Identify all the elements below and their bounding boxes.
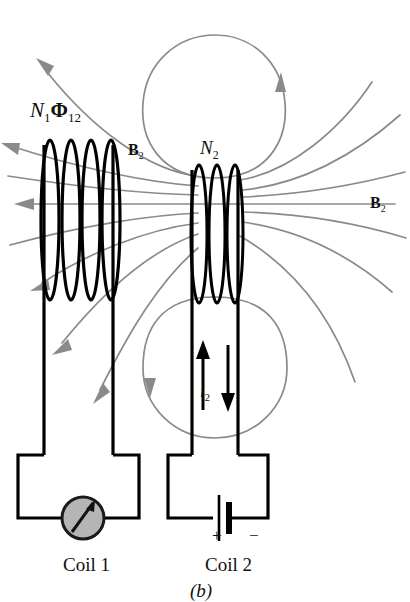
field-arrowhead-down-3 <box>52 339 72 355</box>
field-arrowhead-up-1 <box>36 58 54 76</box>
field-line-down-1 <box>10 213 198 245</box>
flux-phi-subscript: 12 <box>68 110 81 125</box>
b-field-left-label: B2 <box>128 142 144 161</box>
field-line-right-down-2 <box>242 222 392 292</box>
coil-2-turns-symbol: N <box>200 137 213 158</box>
b-field-left-symbol: B <box>128 141 139 158</box>
coil-2-turns-label: N2 <box>200 138 219 162</box>
galvanometer[interactable] <box>62 497 104 539</box>
field-arrowhead-upper-loop <box>275 72 286 92</box>
current-label: i2 <box>200 383 210 404</box>
b-field-right-label: B2 <box>370 195 386 214</box>
coil-1-name-label: Coil 1 <box>63 555 110 574</box>
b-field-right-symbol: B <box>370 194 381 211</box>
field-line-loop-lower <box>143 297 287 438</box>
figure-caption: (b) <box>190 581 212 600</box>
flux-N-symbol: N <box>30 98 44 122</box>
b-field-left-subscript: 2 <box>139 150 144 161</box>
field-line-down-4 <box>100 248 198 390</box>
mutual-inductance-figure <box>0 0 410 602</box>
battery-plus-label: + <box>212 527 222 544</box>
coil-2-circuit <box>168 170 268 518</box>
coil-2-turns-subscript: 2 <box>213 149 219 162</box>
flux-linkage-label: N1Φ12 <box>30 100 81 124</box>
current-subscript: 2 <box>205 392 210 403</box>
battery-minus-label: − <box>249 527 259 544</box>
b-field-right-subscript: 2 <box>381 203 386 214</box>
coil-1-turn-4 <box>102 140 120 300</box>
coil-1-turn-3 <box>82 140 100 300</box>
current-arrow-up-head-icon <box>196 340 210 359</box>
coil-2-turn-3 <box>227 165 243 303</box>
field-line-right-down-1 <box>243 212 406 238</box>
field-line-right-down-3 <box>240 236 355 382</box>
flux-phi-symbol: Φ <box>51 98 68 122</box>
field-arrowhead-axis <box>14 198 34 210</box>
coil-2-name-label: Coil 2 <box>205 555 252 574</box>
coil-2-turn-2 <box>209 165 225 303</box>
current-arrow-down-head-icon <box>221 393 235 412</box>
field-arrowhead-up-2 <box>1 143 20 155</box>
